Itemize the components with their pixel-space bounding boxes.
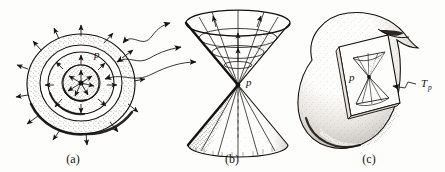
figure-light-cone-tangent-space: p (a): [0, 0, 445, 172]
caption-panel-a: (a): [66, 152, 79, 166]
label-p-panel-b: p: [245, 76, 252, 88]
caption-panel-c: (c): [362, 152, 375, 166]
label-p-panel-c: p: [348, 71, 355, 83]
label-T-subscript-p: p: [427, 83, 432, 92]
label-T: T: [421, 77, 428, 89]
caption-panel-b: (b): [225, 152, 239, 166]
figure-canvas: p (a): [0, 0, 445, 172]
label-p-panel-a: p: [93, 48, 100, 60]
